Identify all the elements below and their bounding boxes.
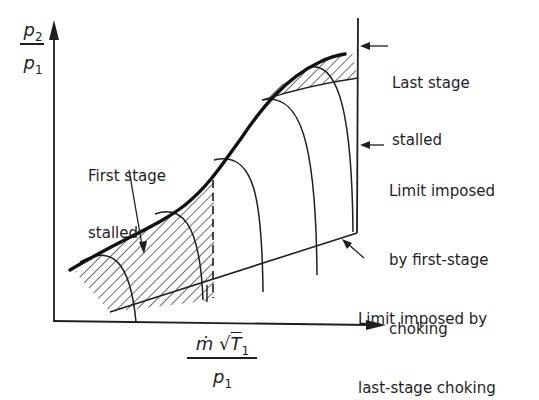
last-stage-stalled-arrow-icon <box>360 42 370 50</box>
y-axis-label: p2 p1 <box>18 20 48 79</box>
x-axis-label: ṁ √T1 p1 <box>185 334 260 393</box>
sqrt-icon: √ <box>219 333 230 354</box>
y-numerator-sub: 2 <box>35 30 43 44</box>
x-fraction-bar <box>187 357 257 359</box>
label-first-stage-stalled: First stage stalled <box>88 129 166 262</box>
x-denominator: p <box>213 366 224 387</box>
y-numerator: p <box>23 19 34 40</box>
y-denominator-sub: 1 <box>35 62 43 76</box>
label-line: Limit imposed <box>389 180 495 203</box>
label-line: First stage <box>88 167 166 186</box>
label-line: stalled <box>88 224 166 243</box>
label-line: Last stage <box>392 74 470 93</box>
first-stage-choking-limit <box>357 18 358 233</box>
x-temp: T <box>231 333 242 354</box>
y-denominator: p <box>23 52 34 73</box>
label-line: Limit imposed by <box>358 308 496 331</box>
first-stage-choking-arrow-icon <box>360 141 370 149</box>
label-line: last-stage choking <box>358 377 496 400</box>
speed-line-3 <box>214 159 263 292</box>
x-denominator-sub: 1 <box>224 376 232 390</box>
label-last-stage-choking: Limit imposed by last-stage choking <box>358 262 496 400</box>
last-stage-choking-pointer <box>348 244 364 258</box>
y-fraction-bar <box>20 43 44 45</box>
last-stage-choking-arrow-icon <box>342 239 352 249</box>
x-mdot: ṁ <box>196 333 214 354</box>
x-axis <box>53 321 372 325</box>
x-temp-sub: 1 <box>242 344 250 358</box>
y-axis-arrow-icon <box>49 20 59 40</box>
speed-line-5 <box>310 67 353 232</box>
